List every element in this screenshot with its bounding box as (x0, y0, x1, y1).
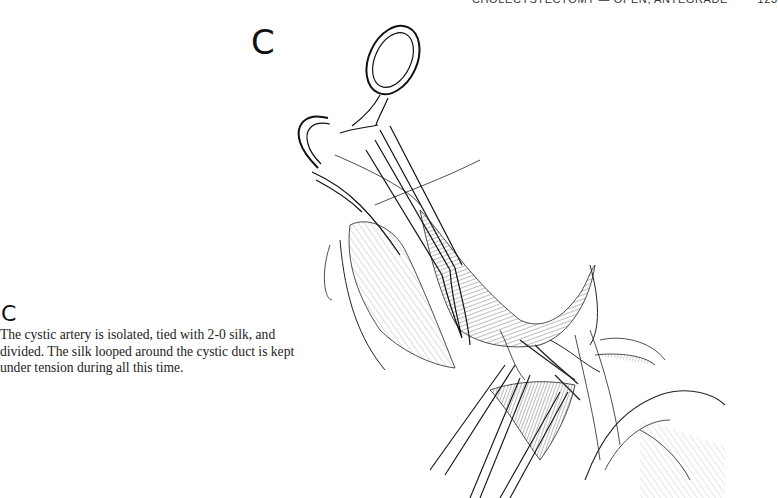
surgical-illustration (295, 0, 725, 498)
tissue-background (324, 155, 725, 498)
page-number: 123 (758, 0, 778, 5)
caption-text: The cystic artery is isolated, tied with… (0, 327, 330, 377)
caption-line: under tension during all this time. (0, 360, 330, 377)
caption-label: C (1, 303, 330, 325)
figure-caption: C The cystic artery is isolated, tied wi… (0, 303, 330, 377)
figure-label: C (251, 22, 275, 62)
caption-line: The cystic artery is isolated, tied with… (0, 327, 330, 344)
caption-line: divided. The silk looped around the cyst… (0, 344, 330, 361)
